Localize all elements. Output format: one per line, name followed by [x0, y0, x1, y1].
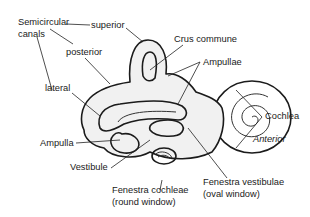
label-ampullae: Ampullae — [203, 57, 242, 68]
label-fenestra-cochleae-line2: (round window) — [112, 197, 176, 208]
label-lateral-canal: lateral — [45, 83, 70, 94]
label-crus-commune: Crus commune — [174, 34, 237, 45]
label-cochlea: Cochlea — [265, 111, 299, 122]
label-ampulla: Ampulla — [40, 138, 74, 149]
label-semicircular-canals-line2: canals — [18, 29, 45, 40]
label-fenestra-vestibulae-line2: (oval window) — [203, 189, 260, 200]
label-fenestra-vestibulae-line1: Fenestra vestibulae — [203, 177, 284, 188]
label-semicircular-canals-line1: Semicircular — [18, 17, 69, 28]
label-superior-canal: superior — [91, 20, 125, 31]
label-vestibule: Vestibule — [70, 162, 108, 173]
label-fenestra-cochleae-line1: Fenestra cochleae — [112, 185, 189, 196]
label-anterior: Anterior — [253, 134, 286, 145]
label-posterior-canal: posterior — [66, 47, 102, 58]
inner-ear-diagram: Semicircular canals superior posterior l… — [0, 0, 310, 217]
